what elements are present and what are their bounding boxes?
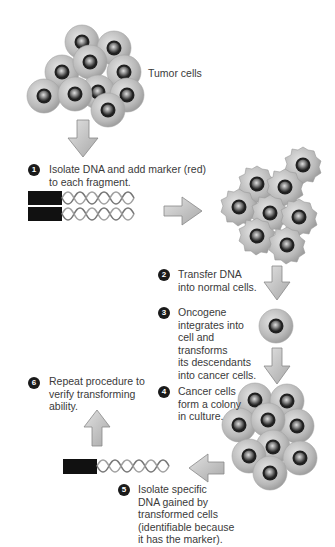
isolated-dna-fragment	[63, 459, 169, 474]
arrow-down-tumor-icon	[68, 120, 98, 157]
step-2-badge: 2	[158, 269, 170, 281]
step-3-text: Oncogene integrates into cell and transf…	[178, 306, 256, 381]
step-6-badge: 6	[28, 377, 40, 389]
dna-fragments-with-marker	[28, 191, 134, 221]
step-3-badge: 3	[158, 307, 170, 319]
step-1-text: Isolate DNA and add marker (red) to each…	[49, 163, 206, 188]
normal-cell-cluster	[221, 147, 321, 264]
step-5-badge: 5	[118, 484, 130, 496]
transformed-cell	[259, 309, 293, 343]
arrow-down-colony-icon	[264, 348, 290, 384]
arrow-right-icon	[164, 197, 202, 225]
step-6-text: Repeat procedure to verify transforming …	[49, 375, 145, 413]
tumor-cell-cluster	[27, 25, 144, 127]
arrow-left-icon	[189, 454, 224, 482]
step-4-badge: 4	[158, 386, 170, 398]
tumor-cells-label: Tumor cells	[148, 67, 202, 80]
step-4-text: Cancer cells form a colony in culture.	[178, 385, 241, 423]
arrow-up-icon	[84, 410, 110, 446]
step-5-text: Isolate specific DNA gained by transform…	[138, 483, 234, 546]
step-1-badge: 1	[28, 164, 40, 176]
step-2-text: Transfer DNA into normal cells.	[178, 268, 257, 293]
arrow-down-oncogene-icon	[264, 266, 290, 300]
